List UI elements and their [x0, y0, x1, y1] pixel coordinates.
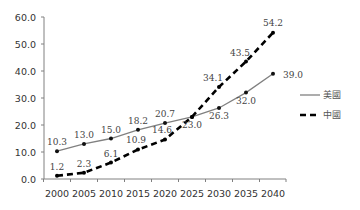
data-point	[136, 128, 140, 132]
legend: 美國 中國	[300, 89, 341, 120]
data-label-us: 15.0	[101, 125, 121, 135]
data-label-cn: 2.3	[77, 159, 92, 169]
data-point	[271, 31, 275, 35]
data-point	[55, 174, 59, 178]
data-label-cn: 10.9	[126, 135, 146, 145]
x-tick-label: 2035	[234, 188, 258, 199]
data-point	[271, 72, 275, 76]
data-point	[82, 142, 86, 146]
data-label-cn: 6.1	[104, 149, 118, 159]
data-label-cn: 43.5	[230, 48, 250, 58]
data-label-cn: 14.6	[152, 125, 172, 135]
data-label-us: 39.0	[283, 70, 303, 80]
data-point	[217, 85, 221, 89]
y-tick-label: 0.0	[21, 174, 36, 185]
x-tick-label: 2000	[45, 188, 69, 199]
data-label-us: 18.2	[128, 116, 148, 126]
data-point	[190, 115, 194, 119]
y-tick-label: 40.0	[15, 66, 36, 77]
data-label-cn: 54.2	[263, 18, 283, 28]
data-label-cn: 1.2	[50, 162, 64, 172]
line-chart: 0.010.020.030.040.050.060.02000200520102…	[0, 0, 360, 210]
data-point	[82, 171, 86, 175]
x-tick-label: 2040	[261, 188, 285, 199]
data-point	[163, 138, 167, 142]
data-point	[109, 137, 113, 141]
data-point	[109, 161, 113, 165]
data-label-cn: 34.1	[203, 73, 223, 83]
data-point	[217, 106, 221, 110]
y-tick-label: 50.0	[15, 39, 36, 50]
y-tick-label: 20.0	[15, 120, 36, 131]
y-tick-label: 30.0	[15, 93, 36, 104]
legend-cn-label: 中國	[323, 109, 341, 120]
legend-us-label: 美國	[323, 89, 341, 100]
data-point	[244, 60, 248, 64]
x-tick-label: 2015	[126, 188, 150, 199]
x-tick-label: 2010	[99, 188, 123, 199]
x-tick-label: 2005	[72, 188, 96, 199]
x-tick-label: 2030	[207, 188, 231, 199]
data-label-us: 10.3	[47, 137, 67, 147]
y-tick-label: 10.0	[15, 147, 36, 158]
data-label-us: 20.7	[155, 109, 175, 119]
y-tick-label: 60.0	[15, 12, 36, 23]
x-tick-label: 2020	[153, 188, 177, 199]
data-label-us: 23.0	[182, 120, 202, 130]
data-point	[55, 149, 59, 153]
data-label-us: 32.0	[236, 96, 256, 106]
data-label-us: 13.0	[74, 130, 94, 140]
data-label-us: 26.3	[209, 111, 229, 121]
data-point	[244, 91, 248, 95]
x-tick-label: 2025	[180, 188, 204, 199]
data-point	[136, 148, 140, 152]
